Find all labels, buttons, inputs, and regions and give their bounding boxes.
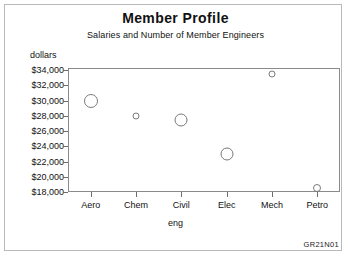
x-tick-label-mech: Mech <box>261 200 283 210</box>
y-tick-mark <box>63 162 68 163</box>
x-tick-mark <box>317 192 318 197</box>
x-tick-mark <box>91 192 92 197</box>
x-tick-label-aero: Aero <box>81 200 100 210</box>
data-point-chem <box>133 112 140 119</box>
y-tick-mark <box>63 131 68 132</box>
x-tick-label-elec: Elec <box>218 200 236 210</box>
plot-area <box>68 68 340 192</box>
data-point-mech <box>269 70 276 77</box>
corner-code: GR21N01 <box>304 240 339 249</box>
y-tick-label: $30,000 <box>31 96 64 106</box>
y-tick-mark <box>63 70 68 71</box>
x-tick-label-petro: Petro <box>307 200 329 210</box>
y-tick-label: $34,000 <box>31 65 64 75</box>
y-tick-mark <box>63 146 68 147</box>
x-tick-mark <box>272 192 273 197</box>
y-tick-mark <box>63 85 68 86</box>
y-tick-label: $28,000 <box>31 111 64 121</box>
x-tick-mark <box>227 192 228 197</box>
y-tick-mark <box>63 192 68 193</box>
x-axis-label: eng <box>0 218 351 228</box>
data-point-civil <box>175 113 188 126</box>
y-tick-label: $32,000 <box>31 80 64 90</box>
x-tick-mark <box>181 192 182 197</box>
y-tick-label: $26,000 <box>31 126 64 136</box>
x-tick-label-chem: Chem <box>124 200 148 210</box>
data-point-elec <box>220 147 233 160</box>
y-tick-label: $24,000 <box>31 141 64 151</box>
y-tick-label: $22,000 <box>31 157 64 167</box>
y-tick-mark <box>63 101 68 102</box>
y-tick-label: $20,000 <box>31 172 64 182</box>
x-tick-label-civil: Civil <box>173 200 190 210</box>
chart-page: Member Profile Salaries and Number of Me… <box>0 0 351 261</box>
data-point-petro <box>313 184 321 192</box>
x-tick-mark <box>136 192 137 197</box>
data-point-aero <box>84 94 98 108</box>
y-tick-label: $18,000 <box>31 187 64 197</box>
y-tick-mark <box>63 116 68 117</box>
y-tick-mark <box>63 177 68 178</box>
